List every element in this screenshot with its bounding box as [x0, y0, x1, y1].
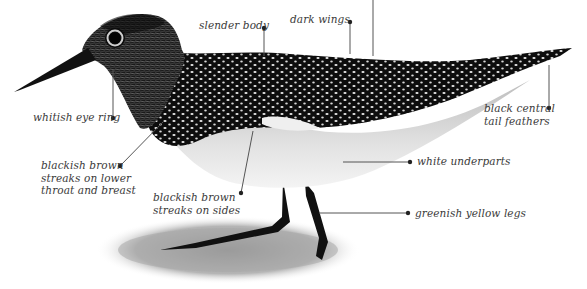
label-black-central-tail-feathers: black central tail feathers	[484, 102, 555, 127]
bill	[14, 48, 96, 92]
sandpiper-diagram: slender body dark wings whitish eye ring…	[0, 0, 587, 289]
wing-back	[146, 48, 572, 146]
label-whitish-eye-ring: whitish eye ring	[33, 111, 120, 124]
label-white-underparts: white underparts	[417, 155, 511, 168]
label-blackish-brown-sides: blackish brown streaks on sides	[153, 191, 240, 216]
bird-illustration	[0, 0, 587, 289]
label-dark-wings: dark wings	[290, 13, 350, 26]
eye	[105, 28, 125, 48]
label-slender-body: slender body	[199, 19, 269, 32]
label-greenish-yellow-legs: greenish yellow legs	[415, 207, 526, 220]
label-blackish-brown-throat: blackish brown streaks on lower throat a…	[41, 159, 136, 197]
